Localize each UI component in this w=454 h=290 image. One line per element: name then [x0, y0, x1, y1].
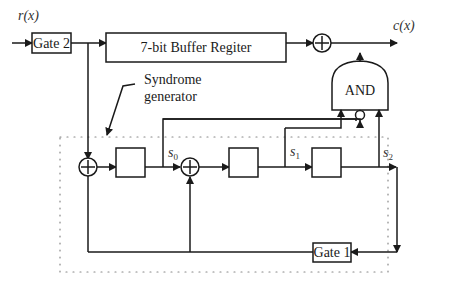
- output-label: c(x): [393, 18, 415, 34]
- gate-2-label: Gate 2: [33, 36, 70, 51]
- buffer-label: 7-bit Buffer Regiter: [141, 40, 252, 55]
- gate-2: Gate 2: [32, 33, 71, 53]
- shift-register-1: [229, 148, 258, 177]
- gate-1: Gate 1: [313, 243, 351, 262]
- input-label: r(x): [18, 8, 39, 24]
- xor-2: [181, 158, 199, 176]
- xor-1: [79, 158, 97, 176]
- s2-label: s2: [383, 145, 393, 162]
- output-xor: [313, 34, 331, 52]
- buffer-register: 7-bit Buffer Regiter: [106, 33, 286, 62]
- syndrome-label-line1: Syndrome: [144, 72, 202, 87]
- s1-label: s1: [290, 144, 300, 161]
- and-label: AND: [345, 83, 375, 98]
- gate-1-label: Gate 1: [314, 245, 351, 260]
- shift-register-2: [312, 148, 341, 177]
- shift-register-0: [116, 148, 145, 177]
- s0-label: s0: [168, 145, 178, 162]
- syndrome-pointer-arrow: [107, 84, 135, 135]
- inverter-bubble: [356, 111, 365, 120]
- s0-route: [163, 119, 360, 121]
- syndrome-decoder-diagram: r(x) Gate 2 7-bit Buffer Regiter c(x) AN…: [0, 0, 454, 290]
- syndrome-label-line2: generator: [144, 89, 197, 104]
